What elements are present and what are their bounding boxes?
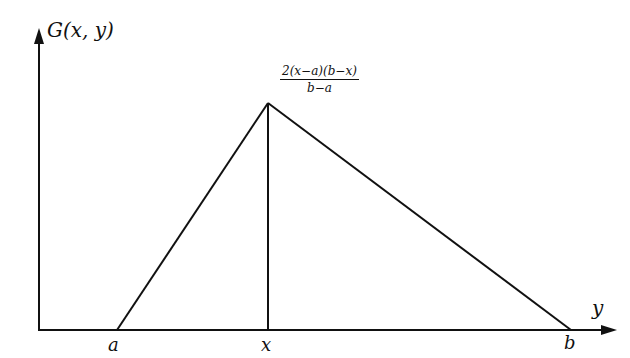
tick-label-b: b <box>564 332 576 353</box>
peak-numerator: 2(x−a)(b−x) <box>280 64 359 80</box>
peak-denominator: b−a <box>280 80 359 95</box>
y-axis-label: G(x, y) <box>47 18 114 42</box>
tick-label-a: a <box>108 334 119 355</box>
falling-edge <box>268 103 571 330</box>
peak-value-label: 2(x−a)(b−x) b−a <box>280 64 359 95</box>
tick-label-x: x <box>261 334 271 355</box>
x-axis-label: y <box>592 296 603 320</box>
rising-edge <box>117 103 268 330</box>
diagram-canvas <box>0 0 630 358</box>
y-axis-arrow-icon <box>34 28 44 44</box>
x-axis-arrow-icon <box>601 325 617 335</box>
